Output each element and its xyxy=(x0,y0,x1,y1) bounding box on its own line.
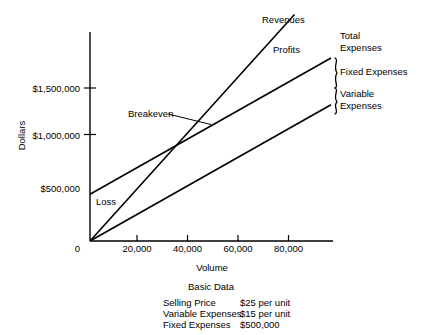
basic-data-row-value-0: $25 per unit xyxy=(240,297,290,308)
basic-data-row-value-1: $15 per unit xyxy=(240,308,290,319)
variable-expenses-label-line2: Expenses xyxy=(340,100,382,111)
profits-label: Profits xyxy=(273,44,300,55)
revenues-label: Revenues xyxy=(262,14,305,25)
breakeven-leader-line xyxy=(168,114,211,125)
basic-data-row-label-0: Selling Price xyxy=(163,297,216,308)
y-tick-label-zero: 0 xyxy=(58,243,80,254)
loss-label: Loss xyxy=(96,196,116,207)
basic-data-title: Basic Data xyxy=(161,281,261,292)
basic-data-row-value-2: $500,000 xyxy=(240,319,280,330)
total-expenses-label-line2: Expenses xyxy=(340,42,382,53)
variable-expenses-label: Variable Expenses xyxy=(340,88,420,111)
fixed-expenses-label: Fixed Expenses xyxy=(340,66,408,77)
breakeven-chart-figure: Dollars $1,500,000 $1,000,000 $500,000 0… xyxy=(0,0,423,335)
basic-data-row-label-1: Variable Expenses xyxy=(163,308,242,319)
variable-expenses-label-line1: Variable xyxy=(340,88,374,99)
x-axis-title: Volume xyxy=(162,262,262,273)
total-expenses-label-line1: Total xyxy=(340,30,360,41)
y-tick-label-500000: $500,000 xyxy=(8,183,80,194)
y-tick-label-1000000: $1,000,000 xyxy=(8,130,80,141)
basic-data-row-label-2: Fixed Expenses xyxy=(163,319,231,330)
breakeven-label: Breakeven xyxy=(128,108,173,119)
revenues-line xyxy=(90,15,295,242)
fixed-expenses-brace-icon xyxy=(335,58,337,114)
y-tick-label-1500000: $1,500,000 xyxy=(8,83,80,94)
total-expenses-label: Total Expenses xyxy=(340,30,420,53)
x-tick-label-80000: 80,000 xyxy=(259,243,319,254)
